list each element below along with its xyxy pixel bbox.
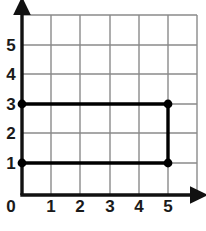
y-tick-label-3: 3 bbox=[3, 96, 19, 113]
y-tick-label-1: 1 bbox=[3, 155, 19, 172]
vertex-point-5-3 bbox=[164, 100, 173, 109]
coordinate-grid-figure: 0 1 2 3 4 5 5 4 3 2 1 bbox=[0, 0, 206, 231]
y-tick-label-5: 5 bbox=[3, 37, 19, 54]
x-tick-label-1: 1 bbox=[43, 198, 59, 215]
y-tick-label-4: 4 bbox=[3, 66, 19, 83]
x-tick-label-0: 0 bbox=[3, 198, 19, 215]
x-tick-label-5: 5 bbox=[160, 198, 176, 215]
x-tick-label-2: 2 bbox=[72, 198, 88, 215]
vertex-point-5-1 bbox=[164, 159, 173, 168]
x-tick-label-3: 3 bbox=[102, 198, 118, 215]
x-tick-label-4: 4 bbox=[131, 198, 147, 215]
y-tick-label-2: 2 bbox=[3, 125, 19, 142]
plot-canvas bbox=[0, 0, 206, 231]
